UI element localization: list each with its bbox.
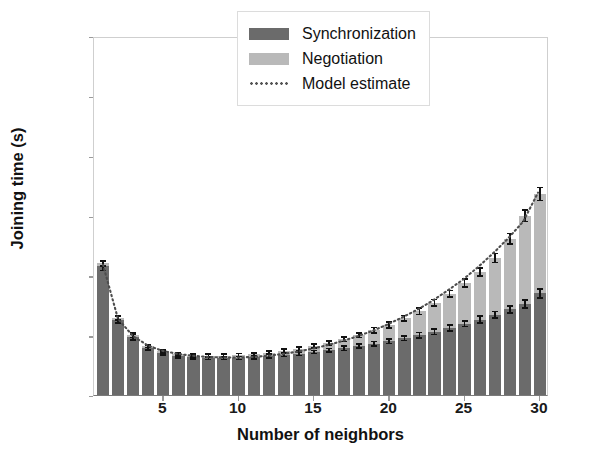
x-tick-mark-25 bbox=[464, 396, 465, 401]
legend-item-model-estimate: Model estimate bbox=[249, 71, 416, 96]
legend-swatch-light-gray bbox=[249, 53, 289, 65]
x-tick-mark-5 bbox=[162, 396, 163, 401]
x-tick-label-10: 10 bbox=[218, 399, 258, 417]
y-tick-mark-300 bbox=[89, 217, 94, 218]
figure: Joining time (s) 0100200300400500600 510… bbox=[0, 0, 589, 470]
legend-label: Synchronization bbox=[302, 25, 416, 43]
x-tick-label-25: 25 bbox=[444, 399, 484, 417]
legend-label: Negotiation bbox=[302, 50, 383, 68]
y-tick-mark-400 bbox=[89, 157, 94, 158]
x-tick-mark-10 bbox=[238, 396, 239, 401]
x-tick-label-20: 20 bbox=[368, 399, 408, 417]
x-tick-label-15: 15 bbox=[293, 399, 333, 417]
model-estimate-polyline bbox=[103, 193, 538, 358]
legend-item-negotiation: Negotiation bbox=[249, 46, 416, 71]
x-tick-mark-15 bbox=[313, 396, 314, 401]
x-axis-label: Number of neighbors bbox=[93, 425, 548, 444]
legend-item-synchronization: Synchronization bbox=[249, 21, 416, 46]
x-tick-label-5: 5 bbox=[142, 399, 182, 417]
legend-swatch-dark-gray bbox=[249, 28, 289, 40]
legend-label: Model estimate bbox=[302, 75, 411, 93]
y-tick-mark-0 bbox=[89, 396, 94, 397]
y-axis-label: Joining time (s) bbox=[8, 24, 27, 354]
y-tick-mark-600 bbox=[89, 37, 94, 38]
y-tick-mark-500 bbox=[89, 97, 94, 98]
x-tick-label-30: 30 bbox=[519, 399, 559, 417]
legend-dotted-line bbox=[249, 82, 289, 85]
x-tick-mark-30 bbox=[539, 396, 540, 401]
y-tick-mark-100 bbox=[89, 336, 94, 337]
y-tick-mark-200 bbox=[89, 276, 94, 277]
x-tick-mark-20 bbox=[388, 396, 389, 401]
legend: SynchronizationNegotiationModel estimate bbox=[237, 11, 430, 106]
